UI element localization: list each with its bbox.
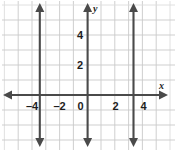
y-axis-arrow-up xyxy=(83,3,92,12)
y-axis-label: y xyxy=(92,3,98,14)
x-axis-label: x xyxy=(158,80,164,91)
x-tick-label-pos4: 4 xyxy=(140,100,147,112)
x-tick-label-pos2: 2 xyxy=(112,100,118,112)
x-axis-arrow-right xyxy=(159,91,168,100)
graph-screenshot: –4 –2 0 2 4 2 4 y x xyxy=(0,0,177,151)
x-tick-label-neg2: –2 xyxy=(53,100,65,112)
y-axis-arrow-down xyxy=(83,138,92,147)
x-tick-label-zero: 0 xyxy=(77,100,83,112)
line-right-arrow-down xyxy=(129,138,138,147)
line-left-arrow-down xyxy=(35,138,44,147)
x-tick-label-neg4: –4 xyxy=(26,100,39,112)
y-tick-label-pos2: 2 xyxy=(77,59,83,71)
line-left-arrow-up xyxy=(35,3,44,12)
coordinate-plane: –4 –2 0 2 4 2 4 y x xyxy=(0,0,177,151)
y-tick-label-pos4: 4 xyxy=(77,29,84,41)
x-axis xyxy=(3,91,168,100)
line-right-arrow-up xyxy=(129,3,138,12)
